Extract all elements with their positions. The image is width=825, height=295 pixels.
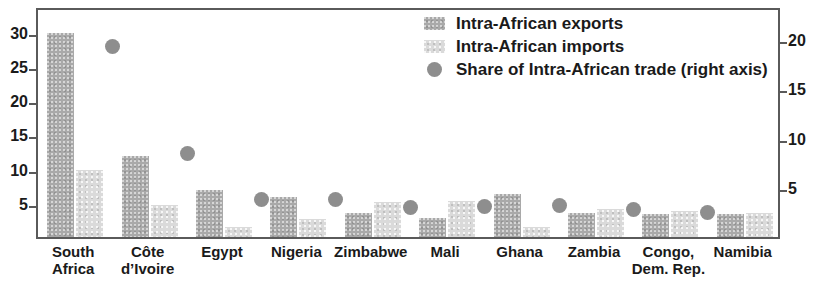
category-label-line: Côte [131,243,164,260]
category-label-line: Namibia [714,243,772,260]
right-axis-tick [779,141,787,143]
bar-intra-african-exports [568,213,595,237]
legend-item: Share of Intra-African trade (right axis… [424,58,774,81]
legend-label: Intra-African imports [456,37,624,57]
right-axis-tick-label: 10 [788,132,806,148]
right-axis-tick-label: 5 [788,181,797,197]
left-axis-tick-label: 10 [0,163,28,179]
legend-item: Intra-African exports [424,12,774,35]
legend-label: Share of Intra-African trade (right axis… [456,60,768,80]
left-axis-tick [29,137,37,139]
right-axis-tick-label: 20 [788,33,806,49]
bar-intra-african-exports [47,33,74,237]
bar-intra-african-imports [597,209,624,237]
legend-swatch-icon [424,40,445,53]
left-axis-tick [29,69,37,71]
category-label-line: Mali [431,243,460,260]
marker-share-of-intra-african-trade [700,205,715,220]
left-axis-tick [29,206,37,208]
left-axis-tick [29,103,37,105]
legend-label: Intra-African exports [456,14,623,34]
right-axis-tick-label: 15 [788,82,806,98]
legend-swatch-icon [424,17,445,30]
right-axis-tick [779,190,787,192]
legend-dot-icon [427,62,442,77]
bar-intra-african-exports [494,194,521,237]
left-axis-tick-label: 25 [0,60,28,76]
marker-share-of-intra-african-trade [403,200,418,215]
category-label-line: Dem. Rep. [608,260,728,277]
marker-share-of-intra-african-trade [328,192,343,207]
bar-intra-african-exports [122,156,149,237]
bar-intra-african-imports [746,213,773,237]
left-axis: 51015202530 [0,8,28,239]
bar-intra-african-imports [225,227,252,237]
marker-share-of-intra-african-trade [180,146,195,161]
left-axis-tick-label: 30 [0,26,28,42]
right-axis: 5101520 [788,8,822,239]
bar-intra-african-imports [448,201,475,237]
category-label-line: d’Ivoire [88,260,208,277]
left-axis-tick-label: 20 [0,94,28,110]
intra-african-trade-chart: 51015202530 5101520 SouthAfricaCôted’Ivo… [0,0,825,295]
bar-intra-african-imports [671,211,698,237]
bar-intra-african-imports [523,227,550,237]
bar-intra-african-exports [419,218,446,237]
legend-item: Intra-African imports [424,35,774,58]
right-axis-tick [779,91,787,93]
bar-intra-african-exports [345,213,372,237]
category-axis: SouthAfricaCôted’IvoireEgyptNigeriaZimba… [36,243,780,291]
left-axis-tick [29,35,37,37]
right-axis-tick [779,42,787,44]
bar-intra-african-exports [717,214,744,237]
bar-intra-african-imports [76,170,103,237]
marker-share-of-intra-african-trade [626,202,641,217]
marker-share-of-intra-african-trade [105,39,120,54]
left-axis-tick-label: 15 [0,128,28,144]
chart-legend: Intra-African exportsIntra-African impor… [424,12,774,81]
bar-intra-african-imports [299,219,326,237]
bar-intra-african-imports [374,202,401,237]
bar-intra-african-exports [270,197,297,237]
marker-share-of-intra-african-trade [552,198,567,213]
bar-intra-african-imports [151,205,178,237]
left-axis-tick-label: 5 [0,197,28,213]
bar-intra-african-exports [642,214,669,237]
bar-intra-african-exports [196,190,223,237]
marker-share-of-intra-african-trade [477,199,492,214]
marker-share-of-intra-african-trade [254,192,269,207]
left-axis-tick [29,172,37,174]
category-label: Namibia [683,243,803,260]
